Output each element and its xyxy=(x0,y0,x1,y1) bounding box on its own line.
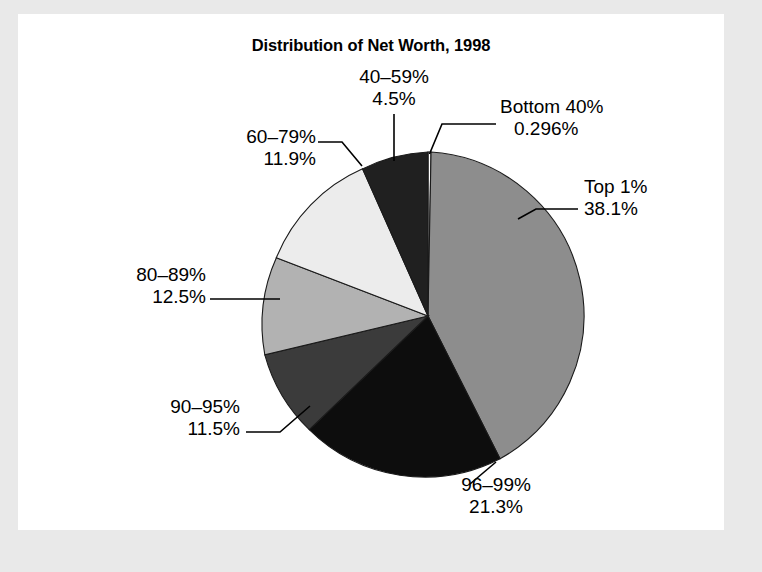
slice-label-bottom-40: Bottom 40% 0.296% xyxy=(500,96,604,141)
slice-label-96-99-value: 21.3% xyxy=(416,496,576,518)
slice-label-bottom-40-value: 0.296% xyxy=(500,118,604,140)
slice-label-40-59: 40–59% 4.5% xyxy=(320,66,468,111)
slice-label-60-79-value: 11.9% xyxy=(168,148,316,170)
slice-label-90-95-value: 11.5% xyxy=(94,418,240,440)
chart-panel: Distribution of Net Worth, 1998 xyxy=(18,14,724,530)
slice-label-40-59-value: 4.5% xyxy=(320,88,468,110)
leader-line-60-79 xyxy=(318,142,362,166)
slice-label-96-99: 96–99% 21.3% xyxy=(416,474,576,519)
slice-label-90-95: 90–95% 11.5% xyxy=(94,396,240,441)
slice-label-top-1-value: 38.1% xyxy=(584,198,647,220)
figure-frame: Distribution of Net Worth, 1998 xyxy=(0,0,762,572)
slice-label-80-89-value: 12.5% xyxy=(60,286,206,308)
slice-label-80-89-name: 80–89% xyxy=(136,264,206,285)
slice-label-60-79: 60–79% 11.9% xyxy=(168,126,316,171)
slice-label-60-79-name: 60–79% xyxy=(246,126,316,147)
leader-line-bottom-40 xyxy=(430,124,497,154)
slice-label-top-1: Top 1% 38.1% xyxy=(584,176,647,221)
slice-label-40-59-name: 40–59% xyxy=(359,66,429,87)
slice-label-96-99-name: 96–99% xyxy=(461,474,531,495)
slice-label-bottom-40-name: Bottom 40% xyxy=(500,96,604,117)
slice-label-90-95-name: 90–95% xyxy=(170,396,240,417)
slice-label-80-89: 80–89% 12.5% xyxy=(60,264,206,309)
slice-label-top-1-name: Top 1% xyxy=(584,176,647,197)
pie-slices xyxy=(262,152,584,477)
pie-chart: 40–59% 4.5% Bottom 40% 0.296% Top 1% 38.… xyxy=(18,14,724,530)
